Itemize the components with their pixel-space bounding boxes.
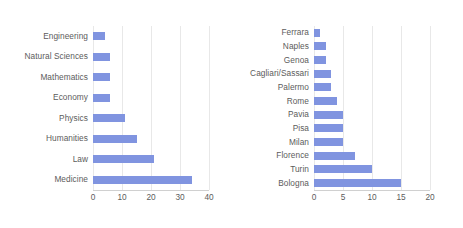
category-label: Naples xyxy=(232,42,314,51)
x-tick-label: 15 xyxy=(396,191,405,203)
category-label: Mathematics xyxy=(0,73,93,82)
bar-row: Florence xyxy=(232,149,430,163)
x-axis-ticks-left: 010203040 xyxy=(0,191,232,203)
bar-track xyxy=(314,165,430,173)
bar-track xyxy=(314,111,430,119)
bar xyxy=(93,155,154,163)
bar xyxy=(314,97,337,105)
category-label: Palermo xyxy=(232,83,314,92)
x-tick-label: 0 xyxy=(312,191,317,203)
bar xyxy=(93,73,110,81)
category-label: Natural Sciences xyxy=(0,52,93,61)
plot-area-left: EngineeringNatural SciencesMathematicsEc… xyxy=(0,0,232,228)
bar xyxy=(93,32,105,40)
bar-row: Palermo xyxy=(232,81,430,95)
bar-track xyxy=(93,53,209,61)
category-label: Economy xyxy=(0,93,93,102)
bar-row: Law xyxy=(0,149,209,170)
category-label: Florence xyxy=(232,151,314,160)
bar xyxy=(314,124,343,132)
bar-row: Pavia xyxy=(232,108,430,122)
chart-panel-left: EngineeringNatural SciencesMathematicsEc… xyxy=(0,0,232,228)
bar-track xyxy=(314,56,430,64)
category-label: Bologna xyxy=(232,179,314,188)
chart-panel-right: FerraraNaplesGenoaCagliari/SassariPalerm… xyxy=(232,0,463,228)
bar-row: Cagliari/Sassari xyxy=(232,67,430,81)
category-label: Genoa xyxy=(232,56,314,65)
bar-track xyxy=(93,155,209,163)
category-label: Pisa xyxy=(232,124,314,133)
bar-track xyxy=(93,73,209,81)
bar-track xyxy=(314,152,430,160)
bar xyxy=(314,152,355,160)
x-tick-label: 10 xyxy=(117,191,126,203)
bar-track xyxy=(314,42,430,50)
category-label: Rome xyxy=(232,97,314,106)
bar-track xyxy=(314,124,430,132)
bar-row: Milan xyxy=(232,135,430,149)
bar xyxy=(314,70,331,78)
bar-row: Bologna xyxy=(232,176,430,190)
bar-track xyxy=(314,138,430,146)
bar xyxy=(314,29,320,37)
bar xyxy=(314,111,343,119)
bar xyxy=(314,83,331,91)
bar xyxy=(93,94,110,102)
bar-row: Genoa xyxy=(232,53,430,67)
bar-track xyxy=(314,97,430,105)
x-tick-label: 0 xyxy=(91,191,96,203)
bar-track xyxy=(314,70,430,78)
bar-rows-right: FerraraNaplesGenoaCagliari/SassariPalerm… xyxy=(232,26,430,190)
bar-row: Medicine xyxy=(0,170,209,191)
category-label: Pavia xyxy=(232,110,314,119)
x-tick-label: 20 xyxy=(146,191,155,203)
bar-track xyxy=(93,135,209,143)
bar xyxy=(314,42,326,50)
bar-track xyxy=(314,29,430,37)
category-label: Ferrara xyxy=(232,28,314,37)
bar-rows-left: EngineeringNatural SciencesMathematicsEc… xyxy=(0,26,209,190)
category-label: Medicine xyxy=(0,175,93,184)
bar xyxy=(314,138,343,146)
bar-row: Physics xyxy=(0,108,209,129)
bar xyxy=(93,114,125,122)
bar xyxy=(93,53,110,61)
bar-track xyxy=(93,176,209,184)
x-tick-label: 20 xyxy=(425,191,434,203)
plot-area-right: FerraraNaplesGenoaCagliari/SassariPalerm… xyxy=(232,0,463,228)
category-label: Milan xyxy=(232,138,314,147)
category-label: Humanities xyxy=(0,134,93,143)
bar-row: Naples xyxy=(232,40,430,54)
bar-row: Turin xyxy=(232,163,430,177)
bar-track xyxy=(93,32,209,40)
bar-row: Economy xyxy=(0,88,209,109)
category-label: Turin xyxy=(232,165,314,174)
category-label: Law xyxy=(0,155,93,164)
x-tick-label: 10 xyxy=(367,191,376,203)
x-tick-label: 5 xyxy=(341,191,346,203)
bar xyxy=(314,56,326,64)
bar-track xyxy=(314,179,430,187)
bar-row: Natural Sciences xyxy=(0,47,209,68)
two-panel-bar-chart-figure: EngineeringNatural SciencesMathematicsEc… xyxy=(0,0,463,228)
x-tick-label: 30 xyxy=(175,191,184,203)
bar-track xyxy=(93,94,209,102)
bar-row: Rome xyxy=(232,94,430,108)
gridline xyxy=(430,26,431,190)
gridline xyxy=(209,26,210,190)
category-label: Cagliari/Sassari xyxy=(232,69,314,78)
bar xyxy=(314,179,401,187)
bar-track xyxy=(314,83,430,91)
category-label: Physics xyxy=(0,114,93,123)
bar xyxy=(314,165,372,173)
x-axis-ticks-right: 05101520 xyxy=(232,191,463,203)
category-label: Engineering xyxy=(0,32,93,41)
x-tick-label: 40 xyxy=(204,191,213,203)
bar-row: Pisa xyxy=(232,122,430,136)
bar xyxy=(93,135,137,143)
bar-row: Mathematics xyxy=(0,67,209,88)
bar xyxy=(93,176,192,184)
bar-row: Humanities xyxy=(0,129,209,150)
bar-track xyxy=(93,114,209,122)
bar-row: Engineering xyxy=(0,26,209,47)
